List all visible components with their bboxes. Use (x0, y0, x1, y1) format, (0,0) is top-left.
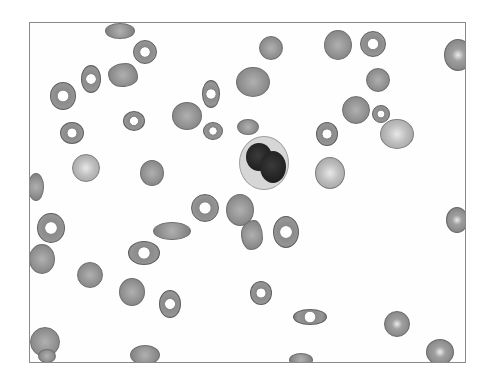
micrograph-frame (29, 22, 466, 363)
red-blood-cell (259, 36, 283, 60)
shine-cell (384, 311, 410, 337)
target-cell (159, 290, 181, 318)
target-cell (37, 213, 65, 243)
red-blood-cell (38, 349, 56, 363)
target-cell (360, 31, 386, 57)
target-cell (273, 216, 299, 248)
red-blood-cell (153, 222, 191, 240)
red-blood-cell (140, 160, 164, 186)
red-blood-cell (105, 23, 135, 39)
red-blood-cell (289, 353, 313, 363)
target-cell (250, 281, 272, 305)
target-cell (202, 80, 220, 108)
binucleated-leukocyte (239, 136, 289, 190)
red-blood-cell (366, 68, 390, 92)
target-cell (133, 40, 157, 64)
target-cell (50, 82, 76, 110)
red-blood-cell (29, 173, 44, 201)
shine-cell (444, 39, 466, 71)
red-blood-cell (119, 278, 145, 306)
red-blood-cell (342, 96, 370, 124)
target-cell (191, 194, 219, 222)
red-blood-cell (130, 345, 160, 363)
nucleus-lobe (260, 151, 286, 183)
red-blood-cell (108, 63, 138, 87)
red-blood-cell (241, 220, 263, 250)
shine-cell (446, 207, 466, 233)
target-cell (60, 122, 84, 144)
shine-cell (426, 339, 454, 363)
red-blood-cell (29, 244, 55, 274)
red-blood-cell (236, 67, 270, 97)
target-cell (316, 122, 338, 146)
red-blood-cell (77, 262, 103, 288)
red-blood-cell (237, 119, 259, 135)
target-cell (81, 65, 101, 93)
target-cell (203, 122, 223, 140)
red-blood-cell (324, 30, 352, 60)
pale-cell (315, 157, 345, 189)
target-cell (293, 309, 327, 325)
target-cell (128, 241, 160, 265)
pale-cell (72, 154, 100, 182)
target-cell (123, 111, 145, 131)
red-blood-cell (172, 102, 202, 130)
pale-cell (380, 119, 414, 149)
